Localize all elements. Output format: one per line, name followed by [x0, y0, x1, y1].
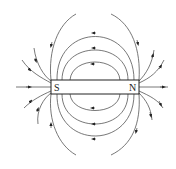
north-pole-label: N — [129, 82, 136, 93]
south-pole-label: S — [54, 82, 60, 93]
lower-field-loops — [57, 94, 134, 139]
arrow-icon — [37, 109, 38, 112]
arrow-icon — [136, 128, 137, 132]
field-line-upper-1 — [70, 62, 120, 80]
field-line-n-top-1 — [111, 14, 139, 80]
arrow-icon — [51, 42, 52, 46]
field-line-upper-2 — [62, 50, 128, 80]
field-line-n-bottom-3 — [139, 91, 163, 108]
magnet-body — [51, 80, 139, 94]
field-line-s-bottom-3 — [24, 91, 51, 108]
field-line-lower-2 — [62, 94, 128, 124]
upper-field-loops — [57, 33, 134, 80]
bar-magnet: S N — [51, 80, 139, 94]
field-line-s-top-2 — [34, 48, 51, 81]
field-line-s-bottom-2 — [38, 93, 51, 124]
field-line-lower-3 — [57, 94, 134, 136]
magnet-field-diagram: S N — [0, 0, 176, 169]
arrow-icon — [137, 40, 138, 44]
field-line-n-top-2 — [139, 50, 154, 81]
field-line-n-bottom-2 — [139, 93, 152, 120]
field-line-upper-3 — [57, 37, 134, 81]
field-line-n-top-3 — [139, 60, 164, 83]
field-line-s-top-3 — [22, 60, 51, 83]
